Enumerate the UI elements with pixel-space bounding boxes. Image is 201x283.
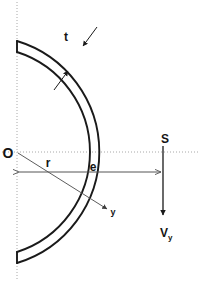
diagram-canvas: O t r e y S Vy bbox=[0, 0, 201, 283]
origin-label: O bbox=[3, 145, 14, 161]
thickness-label: t bbox=[64, 30, 68, 44]
curved-section-diagram: O t r e y S Vy bbox=[0, 0, 201, 283]
eccentricity-label: e bbox=[90, 160, 97, 174]
shear-force-subscript: y bbox=[168, 233, 173, 242]
coordinate-label: y bbox=[110, 207, 115, 217]
radius-label: r bbox=[46, 156, 51, 170]
shear-force-symbol: V bbox=[160, 226, 168, 240]
shear-centre-label: S bbox=[161, 132, 169, 146]
